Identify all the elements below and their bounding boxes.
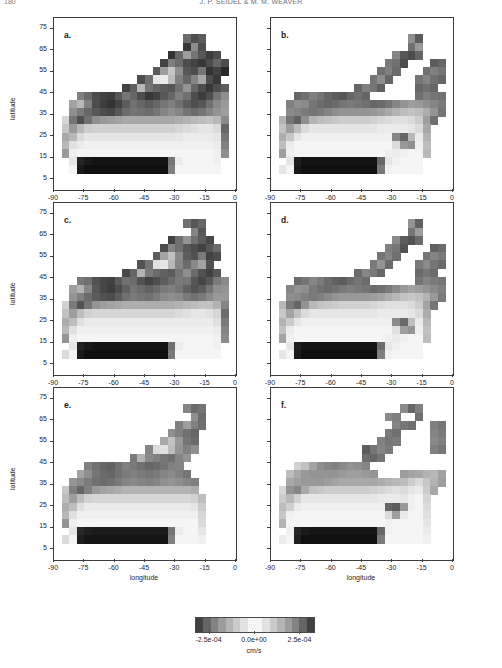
x-tick-mark xyxy=(270,189,271,192)
heatmap-cell xyxy=(415,165,423,174)
y-tick-mark xyxy=(267,527,270,528)
x-tick-label: -60 xyxy=(102,564,126,571)
y-tick-label: 75 xyxy=(25,23,47,30)
heatmap-cell xyxy=(415,413,423,422)
y-tick-label: 55 xyxy=(25,436,47,443)
y-axis-title: latitude xyxy=(9,282,16,305)
plot-area xyxy=(270,202,454,376)
heatmap-cell xyxy=(400,244,408,253)
x-tick-mark xyxy=(300,374,301,377)
x-tick-label: -60 xyxy=(319,379,343,386)
x-tick-label: -90 xyxy=(258,564,282,571)
y-tick-mark xyxy=(267,398,270,399)
y-tick-mark xyxy=(267,320,270,321)
heatmap-cell xyxy=(385,75,393,84)
x-tick-mark xyxy=(114,374,115,377)
x-tick-label: -15 xyxy=(410,194,434,201)
x-tick-mark xyxy=(361,189,362,192)
y-tick-mark xyxy=(50,398,53,399)
x-tick-mark xyxy=(174,189,175,192)
y-tick-mark xyxy=(50,71,53,72)
x-tick-mark xyxy=(452,189,453,192)
x-tick-mark xyxy=(205,189,206,192)
y-tick-mark xyxy=(50,419,53,420)
x-tick-label: -30 xyxy=(379,379,403,386)
y-tick-mark xyxy=(267,548,270,549)
y-tick-mark xyxy=(50,114,53,115)
x-tick-mark xyxy=(270,559,271,562)
x-tick-mark xyxy=(361,559,362,562)
heatmap-cell xyxy=(438,478,446,487)
heatmap-cell xyxy=(377,269,385,278)
y-tick-label: 5 xyxy=(25,359,47,366)
heatmap-cell xyxy=(377,84,385,93)
heatmap-cell xyxy=(213,165,221,174)
x-tick-label: -15 xyxy=(410,379,434,386)
heatmap-cell xyxy=(438,108,446,117)
y-tick-mark xyxy=(267,256,270,257)
x-tick-mark xyxy=(53,374,54,377)
y-tick-mark xyxy=(50,178,53,179)
panel-label-e: e. xyxy=(64,400,71,410)
x-tick-mark xyxy=(270,374,271,377)
x-tick-mark xyxy=(391,559,392,562)
heatmap-cell xyxy=(408,421,416,430)
panel-b: b.-90-75-60-45-30-150longitude xyxy=(270,17,452,189)
y-tick-mark xyxy=(267,114,270,115)
y-tick-mark xyxy=(50,462,53,463)
heatmap-cell xyxy=(191,445,199,454)
x-tick-label: -15 xyxy=(193,564,217,571)
y-tick-mark xyxy=(50,277,53,278)
heatmap-cell xyxy=(385,260,393,269)
x-tick-label: -15 xyxy=(410,564,434,571)
y-tick-mark xyxy=(50,256,53,257)
x-tick-label: -45 xyxy=(132,194,156,201)
y-tick-mark xyxy=(50,157,53,158)
colorbar-tick-mark xyxy=(209,631,210,634)
x-tick-mark xyxy=(331,189,332,192)
x-tick-label: 0 xyxy=(440,564,464,571)
y-tick-label: 45 xyxy=(25,88,47,95)
heatmap-cell xyxy=(213,252,221,261)
y-tick-mark xyxy=(50,342,53,343)
y-tick-label: 45 xyxy=(25,273,47,280)
heatmap-cell xyxy=(213,350,221,359)
heatmap-cell xyxy=(430,301,438,310)
x-tick-label: -15 xyxy=(193,194,217,201)
x-tick-label: -90 xyxy=(41,194,65,201)
heatmap-cell xyxy=(183,454,191,463)
x-tick-mark xyxy=(422,189,423,192)
heatmap-cell xyxy=(415,51,423,60)
heatmap-cells xyxy=(54,203,236,375)
heatmap-cell xyxy=(385,445,393,454)
y-tick-mark xyxy=(267,49,270,50)
heatmap-cell xyxy=(415,350,423,359)
panel-label-a: a. xyxy=(64,30,71,40)
colorbar-unit-label: cm/s xyxy=(195,647,313,654)
y-tick-mark xyxy=(50,441,53,442)
y-tick-label: 65 xyxy=(25,415,47,422)
y-tick-mark xyxy=(267,441,270,442)
y-tick-label: 75 xyxy=(25,393,47,400)
x-tick-mark xyxy=(205,374,206,377)
y-axis-title: latitude xyxy=(9,97,16,120)
x-tick-label: -60 xyxy=(319,194,343,201)
x-tick-mark xyxy=(53,189,54,192)
y-tick-label: 15 xyxy=(25,152,47,159)
x-tick-mark xyxy=(235,374,236,377)
x-tick-label: -60 xyxy=(102,379,126,386)
y-tick-mark xyxy=(267,234,270,235)
x-tick-label: -30 xyxy=(162,564,186,571)
y-tick-label: 35 xyxy=(25,479,47,486)
x-tick-label: -75 xyxy=(288,379,312,386)
plot-area xyxy=(53,17,237,191)
heatmap-cell xyxy=(198,421,206,430)
panel-label-f: f. xyxy=(281,400,286,410)
panel-a: a.756555453525155-90-75-60-45-30-150long… xyxy=(53,17,235,189)
y-tick-mark xyxy=(267,299,270,300)
x-tick-label: 0 xyxy=(223,194,247,201)
heatmap-cell xyxy=(438,260,446,269)
heatmap-cell xyxy=(430,116,438,125)
heatmap-cell xyxy=(392,67,400,76)
y-tick-mark xyxy=(267,363,270,364)
